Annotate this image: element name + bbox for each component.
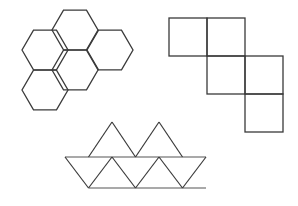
background-rect [0,0,298,206]
geometric-nets-figure [0,0,298,206]
figure-canvas: Geometric Nets Figure [0,0,298,206]
